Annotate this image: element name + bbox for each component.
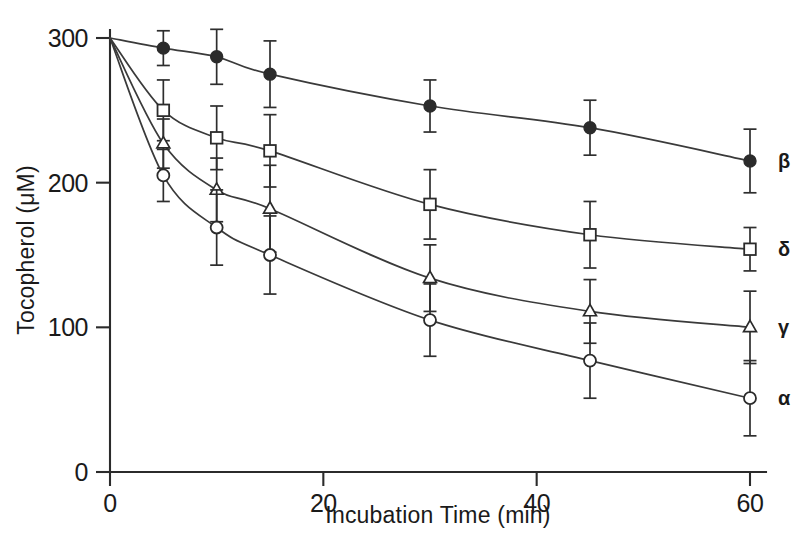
data-point-open-square: [211, 132, 223, 144]
y-axis-tick-label: 0: [75, 458, 88, 486]
series-label-alpha: α: [778, 387, 791, 409]
data-point-open-square: [158, 105, 170, 117]
data-point-open-triangle: [744, 320, 757, 331]
series-alpha: [110, 38, 757, 436]
series-end-labels: βδγα: [778, 150, 791, 409]
data-point-open-circle: [157, 169, 169, 181]
y-axis-tick-label: 100: [48, 313, 88, 341]
series-label-gamma: γ: [778, 316, 790, 338]
y-axis-ticks: [96, 38, 110, 472]
data-point-open-circle: [211, 222, 223, 234]
data-point-filled-circle: [424, 100, 436, 112]
data-point-filled-circle: [211, 51, 223, 63]
data-series-group: [110, 29, 757, 436]
data-point-open-square: [744, 243, 756, 255]
data-point-open-triangle: [157, 137, 170, 148]
data-point-open-square: [584, 229, 596, 241]
data-point-open-circle: [744, 392, 756, 404]
data-point-filled-circle: [157, 42, 169, 54]
data-point-open-square: [424, 199, 436, 211]
series-label-delta: δ: [778, 238, 790, 260]
data-point-open-circle: [424, 314, 436, 326]
data-point-filled-circle: [584, 122, 596, 134]
axes: [96, 30, 766, 486]
data-point-open-square: [264, 145, 276, 157]
x-axis-title: Incubation Time (min): [325, 502, 550, 528]
data-point-open-circle: [584, 355, 596, 367]
y-axis-tick-labels: 0100200300: [48, 24, 88, 486]
series-delta: [110, 38, 757, 271]
data-point-open-circle: [264, 249, 276, 261]
data-point-filled-circle: [264, 68, 276, 80]
x-axis-ticks: [110, 472, 750, 486]
data-point-filled-circle: [744, 155, 756, 167]
y-axis-tick-label: 300: [48, 24, 88, 52]
x-axis-tick-label: 0: [103, 489, 116, 517]
y-axis-title: Tocopherol (μM): [13, 165, 39, 335]
series-beta: [110, 29, 757, 192]
series-label-beta: β: [778, 150, 790, 172]
tocopherol-decay-line-chart: 0100200300 0204060 βδγα Incubation Time …: [0, 0, 809, 554]
chart-figure: 0100200300 0204060 βδγα Incubation Time …: [0, 0, 809, 554]
x-axis-tick-label: 60: [737, 489, 764, 517]
y-axis-tick-label: 200: [48, 169, 88, 197]
